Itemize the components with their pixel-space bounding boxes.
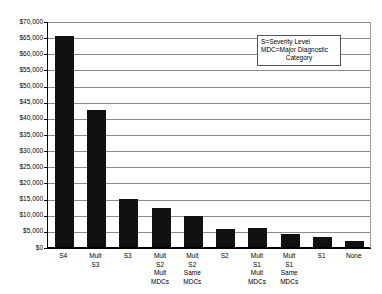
x-axis-tick-label: S2: [209, 252, 241, 261]
y-axis-tick-label: $45,000: [0, 99, 43, 106]
y-axis-tick: [44, 232, 48, 233]
legend-line-severity: S=Severity Level: [261, 38, 337, 46]
y-axis-tick: [44, 70, 48, 71]
y-axis-tick-label: $15,000: [0, 196, 43, 203]
y-axis-tick: [44, 87, 48, 88]
y-axis-tick-label: $60,000: [0, 51, 43, 58]
gridline: [48, 87, 371, 88]
x-axis-tick-label: S1: [305, 252, 337, 261]
gridline: [48, 70, 371, 71]
y-axis-tick-label: $0: [0, 245, 43, 252]
y-axis-tick: [44, 119, 48, 120]
y-axis-tick-label: $35,000: [0, 132, 43, 139]
y-axis-tick: [44, 248, 48, 249]
bar[interactable]: [87, 110, 106, 247]
y-axis-tick-label: $50,000: [0, 83, 43, 90]
bar[interactable]: [119, 199, 138, 247]
y-axis-tick-label: $65,000: [0, 35, 43, 42]
y-axis-tick-label: $70,000: [0, 19, 43, 26]
legend: S=Severity Level MDC=Major Diagnostic Ca…: [257, 35, 341, 66]
bar[interactable]: [281, 234, 300, 247]
y-axis-tick-label: $30,000: [0, 148, 43, 155]
y-axis-tick: [44, 167, 48, 168]
bar[interactable]: [184, 216, 203, 247]
y-axis-tick: [44, 216, 48, 217]
x-axis-tick-label: Mult S2 Mult MDCs: [144, 252, 176, 286]
bar[interactable]: [152, 208, 171, 247]
gridline: [48, 103, 371, 104]
bar[interactable]: [216, 229, 235, 247]
bar[interactable]: [313, 237, 332, 247]
y-axis-tick: [44, 22, 48, 23]
x-axis-tick-label: Mult S2 Same MDCs: [176, 252, 208, 286]
y-axis-tick: [44, 151, 48, 152]
y-axis-tick-label: $55,000: [0, 67, 43, 74]
y-axis-tick: [44, 183, 48, 184]
y-axis-tick-label: $40,000: [0, 115, 43, 122]
bar[interactable]: [345, 241, 364, 247]
y-axis-tick: [44, 38, 48, 39]
y-axis-tick: [44, 103, 48, 104]
y-axis-tick: [44, 200, 48, 201]
legend-line-mdc: MDC=Major Diagnostic: [261, 46, 337, 54]
x-axis-tick-label: Mult S3: [79, 252, 111, 269]
bar[interactable]: [248, 228, 267, 247]
y-axis-tick-label: $10,000: [0, 212, 43, 219]
y-axis-tick: [44, 135, 48, 136]
x-axis-tick-label: Mult S1 Same MDCs: [273, 252, 305, 286]
gridline: [48, 248, 371, 249]
legend-line-category: Category: [261, 54, 337, 62]
y-axis-tick: [44, 54, 48, 55]
bar-chart: $70,000$65,000$60,000$55,000$50,000$45,0…: [0, 0, 382, 294]
y-axis-tick-label: $5,000: [0, 228, 43, 235]
x-axis-tick-label: S3: [112, 252, 144, 261]
gridline: [48, 22, 371, 23]
x-axis-tick-label: Mult S1 Mult MDCs: [241, 252, 273, 286]
x-axis-tick-label: None: [338, 252, 370, 261]
y-axis-tick-label: $20,000: [0, 180, 43, 187]
x-axis-tick-label: S4: [47, 252, 79, 261]
y-axis-tick-label: $25,000: [0, 164, 43, 171]
bar[interactable]: [55, 36, 74, 247]
plot-right-border: [370, 22, 371, 248]
